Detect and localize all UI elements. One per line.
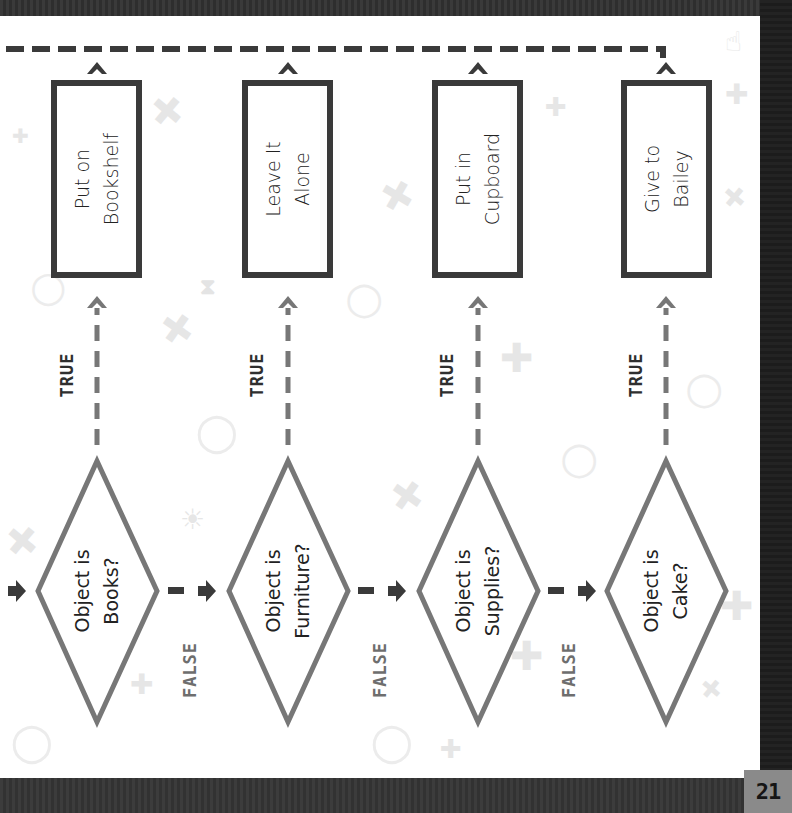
action-box-leave-alone: Leave ItAlone xyxy=(242,80,333,278)
true-arrows xyxy=(97,308,666,445)
true-label: TRUE xyxy=(626,353,646,398)
true-arrowheads xyxy=(87,296,676,308)
false-label: FALSE xyxy=(559,642,579,698)
false-label: FALSE xyxy=(370,642,390,698)
true-label: TRUE xyxy=(57,353,77,398)
action-box-bailey: Give toBailey xyxy=(621,80,712,278)
action-line2: Alone xyxy=(291,152,313,206)
action-line2: Bookshelf xyxy=(100,133,122,225)
return-dashed-line xyxy=(6,49,666,58)
decision-furniture: Object isFurniture? xyxy=(259,531,317,651)
decision-books: Object isBooks? xyxy=(68,531,126,651)
action-line1: Put on xyxy=(71,149,93,209)
false-label: FALSE xyxy=(180,642,200,698)
true-label: TRUE xyxy=(247,353,267,398)
action-line1: Put in xyxy=(452,152,474,206)
true-label: TRUE xyxy=(437,353,457,398)
action-line2: Bailey xyxy=(670,150,692,208)
action-line1: Leave It xyxy=(262,141,284,217)
box-exit-arrowheads xyxy=(87,62,676,74)
decision-supplies: Object isSupplies? xyxy=(449,531,507,651)
decision-cake: Object isCake? xyxy=(637,531,695,651)
action-box-cupboard: Put inCupboard xyxy=(432,80,523,278)
action-line2: Cupboard xyxy=(481,133,503,225)
action-box-bookshelf: Put onBookshelf xyxy=(51,80,142,278)
action-line1: Give to xyxy=(641,145,663,213)
